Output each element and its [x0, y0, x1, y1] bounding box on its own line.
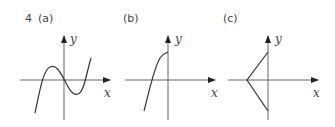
panel-a-y-label: y [69, 32, 77, 46]
panel-b-graph: y x [125, 32, 218, 120]
panel-c-x-label: x [313, 86, 320, 100]
panel-b-x-label: x [211, 86, 218, 100]
panel-c-v-shape [247, 52, 268, 111]
panel-a-graph: y x [20, 32, 111, 120]
panel-c-graph: y x [228, 32, 320, 120]
panel-a-cubic-curve [35, 58, 91, 113]
panel-a-x-label: x [104, 86, 111, 100]
panel-b-curve [144, 52, 168, 111]
panel-b-y-label: y [174, 32, 182, 46]
graphs-canvas: y x y x y x [0, 0, 335, 127]
panel-c-y-label: y [274, 32, 282, 46]
